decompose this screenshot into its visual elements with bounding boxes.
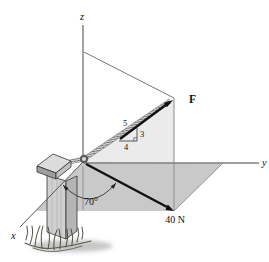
y-axis-label: y: [261, 157, 267, 168]
force-40N-label: 40 N: [165, 214, 185, 225]
slope-3-label: 3: [140, 129, 144, 139]
angle-70-label: 70°: [84, 196, 98, 207]
plane-top-edge: [84, 52, 174, 98]
z-axis-label: z: [79, 11, 84, 22]
x-axis-label: x: [10, 230, 16, 241]
slope-5-label: 5: [123, 118, 127, 128]
statics-diagram: z y x F 40 N 70° 5 3 4: [0, 0, 269, 262]
eye-ring: [81, 156, 87, 162]
force-F-label: F: [189, 93, 196, 105]
figure-canvas: z y x F 40 N 70° 5 3 4: [0, 0, 269, 262]
